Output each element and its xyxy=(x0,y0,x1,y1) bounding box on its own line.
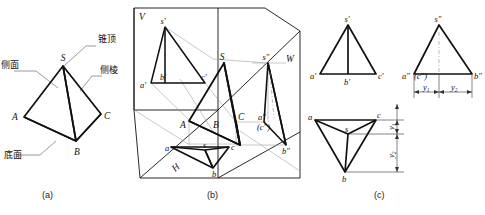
panel-c-top-label-b: b xyxy=(342,174,346,184)
panel-b-h-label-c: c xyxy=(231,142,235,152)
arrow-link-up xyxy=(395,104,399,109)
panel-b-vertex-S: S xyxy=(220,52,225,62)
panel-a-label-face: 侧面 xyxy=(1,59,19,70)
panel-a-label-base: 底面 xyxy=(4,149,22,160)
panel-b-h-label-a: a xyxy=(165,143,169,153)
panel-b-plane-H: H xyxy=(169,161,182,174)
panel-b: s' a' b' c' S A B C a s c b xyxy=(134,8,300,179)
base-outline xyxy=(24,114,101,141)
panel-a-leaders xyxy=(14,46,102,155)
ray-a xyxy=(151,83,189,120)
leader-apex xyxy=(64,46,96,66)
panel-a-hidden xyxy=(63,66,101,114)
edge-sc xyxy=(63,66,101,114)
arrow-ty2-bot xyxy=(395,167,399,172)
panel-c-front-view xyxy=(320,25,376,74)
panel-a-vertex-S: S xyxy=(61,53,66,63)
panel-b-solid-thin xyxy=(224,63,236,122)
panel-b-plane-W: W xyxy=(286,54,295,64)
panel-b-w-label-b: b" xyxy=(282,146,290,156)
face-sbc xyxy=(63,66,101,141)
arrow-y2-left xyxy=(439,90,444,94)
panel-c-front-label-c: c' xyxy=(378,71,384,81)
arrow-ty2-top xyxy=(395,134,399,139)
panel-c: s' a' b' c' s" a" (c") b" a s c b xyxy=(308,14,482,184)
leader-edge xyxy=(80,76,102,91)
panel-a-vertex-C: C xyxy=(104,111,111,121)
leader-face xyxy=(14,71,58,88)
panel-c-side-label-a: a" xyxy=(402,71,410,81)
panel-b-v-label-s: s' xyxy=(160,16,165,26)
w-edge-right xyxy=(268,63,286,145)
caption-b: (b) xyxy=(207,190,218,200)
panel-b-h-projection xyxy=(171,147,229,168)
caption-c: (c) xyxy=(374,190,385,200)
panel-a-vertex-A: A xyxy=(11,112,18,122)
arrow-y2-right xyxy=(467,90,472,94)
panel-c-top-label-s: s xyxy=(345,124,349,134)
panel-a: S A B C 锥顶 侧面 侧棱 底面 xyxy=(1,33,118,160)
panel-b-plane-V: V xyxy=(139,12,146,22)
panel-b-v-label-c: c' xyxy=(201,72,207,82)
panel-b-v-label-b: b' xyxy=(160,72,166,82)
panel-b-vertex-B: B xyxy=(213,120,219,130)
panel-c-side-label-b: b" xyxy=(474,71,482,81)
panel-c-side-label-c: (c") xyxy=(414,71,427,81)
panel-a-label-edge: 侧棱 xyxy=(100,64,118,75)
panel-b-v-label-a: a' xyxy=(140,80,146,90)
panel-b-w-projection xyxy=(264,63,286,145)
figure-root: S A B C 锥顶 侧面 侧棱 底面 xyxy=(0,0,485,215)
panel-c-top-label-c: c xyxy=(377,110,381,120)
arrow-y1-right xyxy=(434,90,439,94)
panel-b-h-label-b: b xyxy=(212,169,216,179)
solid-edge-sc xyxy=(224,63,236,122)
leader-base xyxy=(16,141,56,155)
panel-c-side-view xyxy=(414,25,472,74)
panel-a-label-apex: 锥顶 xyxy=(98,33,116,44)
panel-c-front-label-s: s' xyxy=(344,14,349,24)
caption-a: (a) xyxy=(42,190,53,200)
panel-c-side-label-s: s" xyxy=(435,14,442,24)
panel-b-w-label-c: (c") xyxy=(257,122,270,132)
panel-c-dim-y1-side: y1 xyxy=(422,82,430,93)
panel-c-dim-y1-top: y1 xyxy=(386,123,397,131)
panel-a-vertex-B: B xyxy=(74,147,80,157)
panel-b-h-label-s: s xyxy=(203,140,207,150)
panel-a-pyramid xyxy=(24,66,101,141)
panel-c-dim-top xyxy=(345,104,404,172)
panel-c-front-label-a: a' xyxy=(310,71,316,81)
arrow-y1-left xyxy=(414,90,419,94)
panel-b-w-label-a: a" xyxy=(258,112,266,122)
panel-c-dim-y2-side: y2 xyxy=(450,82,458,93)
panel-c-front-label-b: b' xyxy=(344,77,350,87)
panel-c-top-label-a: a xyxy=(308,112,312,122)
panel-b-vertex-C: C xyxy=(238,112,245,122)
side-tri xyxy=(414,25,472,74)
ray-s-sv xyxy=(165,27,213,59)
panel-b-w-label-s: s" xyxy=(263,52,270,62)
panel-b-vertex-A: A xyxy=(179,120,186,130)
panel-c-dim-y2-top: y2 xyxy=(386,151,397,159)
